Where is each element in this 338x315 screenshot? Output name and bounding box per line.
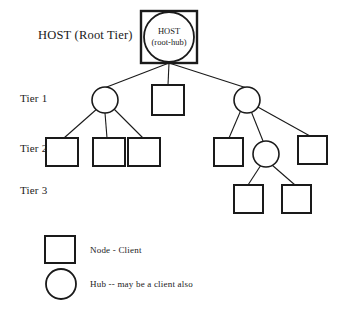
- node-tier3-square-1: [234, 185, 263, 213]
- legend-swatch-legend-hub: [46, 269, 76, 299]
- node-tier2-hub-mid: [253, 141, 279, 167]
- edge-tier1-hub-right-to-hub-mid: [251, 111, 263, 141]
- edge-tier1-hub-left-to-square-2: [105, 113, 107, 138]
- node-tier2-square-2: [93, 138, 125, 166]
- tier-label-tier-1: Tier 1: [20, 93, 47, 104]
- legend-shapes-group: [45, 236, 76, 299]
- node-tier3-square-2: [282, 185, 311, 213]
- nodes-group: [46, 85, 327, 213]
- edge-tier1-hub-left-to-square-3: [113, 108, 143, 138]
- legend-label-legend-hub: Hub -- may be a client also: [90, 280, 193, 289]
- node-tier2-square-5: [298, 136, 327, 164]
- legend-swatch-legend-node: [45, 236, 75, 263]
- node-tier1-hub-left: [92, 87, 118, 113]
- root-node-caption: HOST (root-hub): [141, 26, 197, 47]
- edge-tier1-hub-right-to-square-5: [256, 106, 310, 136]
- edge-tier1-hub-left-to-square-1: [64, 108, 98, 138]
- edge-tier2-hub-mid-to-tier3-square-1: [248, 165, 261, 185]
- diagram-canvas: HOST (Root Tier) HOST (root-hub) Tier 1T…: [0, 0, 338, 315]
- network-topology-diagram: [0, 0, 338, 315]
- edge-tier2-hub-mid-to-tier3-square-2: [272, 165, 295, 185]
- node-tier2-square-4: [214, 138, 243, 166]
- node-tier2-square-1: [46, 138, 78, 166]
- legend-label-legend-node: Node - Client: [90, 246, 142, 255]
- edge-tier1-hub-right-to-square-4: [229, 110, 241, 138]
- root-caption-line-2: (root-hub): [141, 37, 197, 48]
- edge-root-to-tier1-square-mid: [168, 63, 169, 85]
- tier-label-tier-3: Tier 3: [20, 185, 47, 196]
- node-tier2-square-3: [128, 138, 160, 166]
- node-tier1-square-mid: [152, 85, 184, 115]
- tier-label-tier-2: Tier 2: [20, 143, 47, 154]
- node-tier1-hub-right: [234, 87, 260, 113]
- root-tier-label: HOST (Root Tier): [38, 29, 133, 42]
- root-caption-line-1: HOST: [141, 26, 197, 37]
